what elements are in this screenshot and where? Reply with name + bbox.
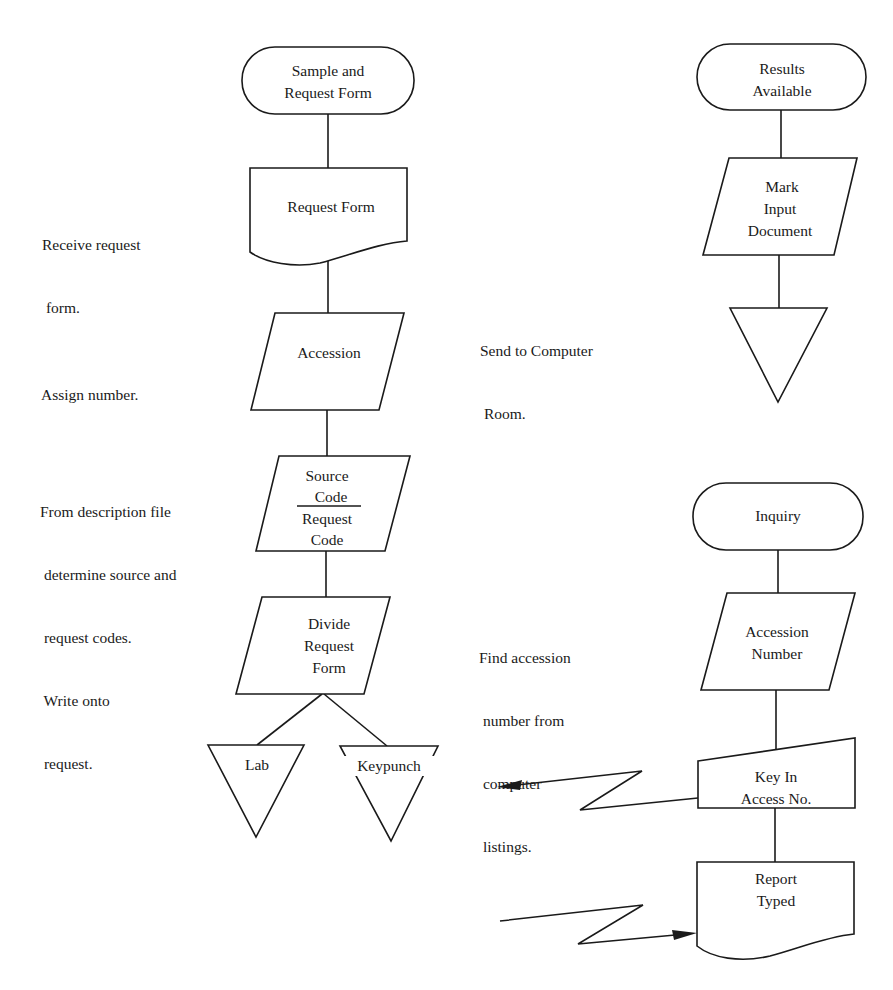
- node-keypunch: Keypunch: [340, 746, 438, 841]
- communication-link-incoming: [500, 905, 697, 944]
- document-shape: [250, 168, 407, 265]
- note-line: determine source and: [40, 564, 176, 585]
- node-results-available: Results Available: [697, 44, 866, 110]
- connector-divide-to-keypunch: [324, 694, 387, 746]
- node-label: Keypunch: [357, 757, 421, 774]
- node-label: Document: [748, 222, 813, 239]
- note-receive-request: Receive request form.: [42, 192, 141, 339]
- connector-divide-to-lab: [257, 694, 322, 745]
- parallelogram-shape: [251, 313, 404, 410]
- node-label: Divide: [308, 615, 350, 632]
- node-label: Inquiry: [755, 507, 801, 524]
- note-line: Room.: [480, 403, 593, 424]
- offline-storage-triangle: [730, 308, 827, 402]
- node-accession: Accession: [251, 313, 404, 410]
- node-mark-input-document: Mark Input Document: [703, 158, 857, 255]
- node-inquiry: Inquiry: [693, 483, 863, 550]
- node-report-typed: Report Typed: [697, 862, 854, 959]
- node-divide-request-form: Divide Request Form: [236, 597, 390, 694]
- node-label: Report: [755, 870, 798, 887]
- node-lab: Lab: [208, 745, 304, 837]
- node-label: Request: [304, 637, 355, 654]
- terminal-shape: [697, 44, 866, 110]
- note-line: request codes.: [40, 627, 176, 648]
- node-label: Lab: [245, 756, 269, 773]
- note-line: number from: [479, 710, 571, 731]
- node-label: Key In: [755, 768, 798, 785]
- terminal-shape: [242, 47, 414, 114]
- arrowhead-icon: [672, 930, 697, 940]
- note-line: listings.: [479, 836, 571, 857]
- note-line: computer: [479, 773, 571, 794]
- node-label: Code: [315, 488, 348, 505]
- node-label: Sample and: [292, 62, 365, 79]
- node-label: Number: [752, 645, 804, 662]
- note-line: Assign number.: [41, 384, 138, 405]
- node-label: Input: [764, 200, 797, 217]
- bolt-line: [500, 905, 686, 944]
- note-send-to-computer-room: Send to Computer Room.: [480, 298, 593, 445]
- note-line: From description file: [40, 501, 176, 522]
- node-label: Mark: [765, 178, 799, 195]
- node-label: Typed: [757, 892, 796, 909]
- node-source-request-code: Source Code Request Code: [256, 456, 410, 551]
- node-storage-triangle: [730, 308, 827, 402]
- node-request-form: Request Form: [250, 168, 407, 265]
- note-line: form.: [42, 297, 141, 318]
- node-label: Results: [759, 60, 805, 77]
- note-line: Send to Computer: [480, 340, 593, 361]
- note-find-accession: Find accession number from computer list…: [479, 605, 571, 878]
- node-label: Available: [752, 82, 811, 99]
- note-line: Write onto: [40, 690, 176, 711]
- node-label: Accession: [745, 623, 809, 640]
- node-sample-request: Sample and Request Form: [242, 47, 414, 114]
- node-label: Request Form: [284, 84, 371, 101]
- node-label: Code: [311, 531, 344, 548]
- node-label: Request Form: [287, 198, 374, 215]
- note-assign-number: Assign number.: [41, 342, 138, 426]
- note-line: Find accession: [479, 647, 571, 668]
- node-accession-number: Accession Number: [701, 593, 855, 690]
- note-description-file: From description file determine source a…: [40, 459, 176, 795]
- node-label: Form: [312, 659, 346, 676]
- node-label: Access No.: [741, 790, 812, 807]
- parallelogram-shape: [701, 593, 855, 690]
- note-line: Receive request: [42, 234, 141, 255]
- node-label: Source: [305, 467, 348, 484]
- note-line: request.: [40, 753, 176, 774]
- node-label: Request: [302, 510, 353, 527]
- node-label: Accession: [297, 344, 361, 361]
